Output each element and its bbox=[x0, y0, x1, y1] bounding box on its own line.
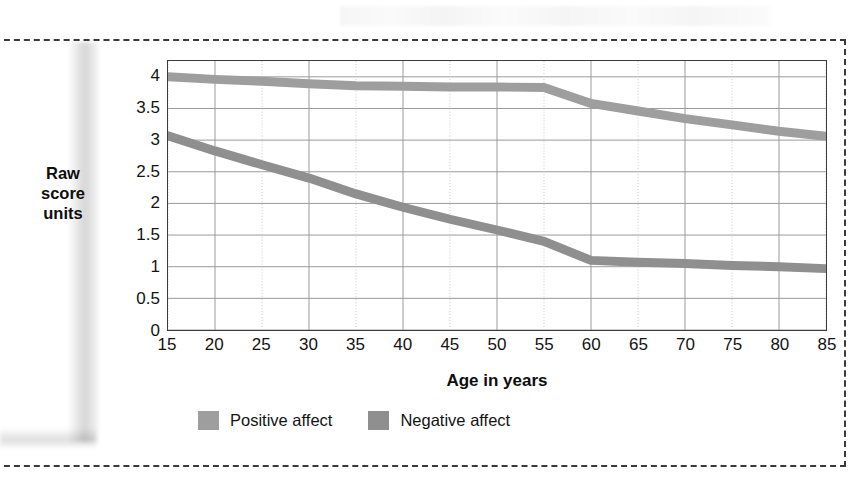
scan-bleed-top bbox=[340, 6, 770, 26]
x-tick-label: 40 bbox=[393, 336, 412, 353]
x-axis-tick-labels: 152025303540455055606570758085 bbox=[167, 336, 827, 360]
series-lines bbox=[168, 61, 826, 330]
x-tick-label: 85 bbox=[818, 336, 837, 353]
legend-item[interactable]: Negative affect bbox=[368, 411, 510, 430]
x-tick-label: 35 bbox=[346, 336, 365, 353]
x-tick-label: 20 bbox=[205, 336, 224, 353]
y-tick-label: 4 bbox=[151, 67, 160, 84]
x-tick-label: 30 bbox=[299, 336, 318, 353]
x-tick-label: 15 bbox=[158, 336, 177, 353]
page-edge-shadow-vertical bbox=[68, 42, 98, 442]
y-tick-label: 0.5 bbox=[136, 290, 160, 307]
legend-label: Positive affect bbox=[230, 411, 332, 430]
x-tick-label: 55 bbox=[535, 336, 554, 353]
x-tick-label: 70 bbox=[676, 336, 695, 353]
x-tick-label: 80 bbox=[770, 336, 789, 353]
y-axis-title-line-1: Raw bbox=[26, 163, 100, 183]
y-tick-label: 3.5 bbox=[136, 99, 160, 116]
y-axis-title-line-2: score bbox=[26, 183, 100, 203]
y-tick-label: 1.5 bbox=[136, 226, 160, 243]
figure-crop-frame-right-edge bbox=[844, 39, 846, 467]
x-tick-label: 25 bbox=[252, 336, 271, 353]
x-tick-label: 45 bbox=[440, 336, 459, 353]
x-axis-title: Age in years bbox=[167, 371, 827, 391]
x-tick-label: 60 bbox=[582, 336, 601, 353]
y-axis-title-line-3: units bbox=[26, 203, 100, 223]
y-axis-title: Raw score units bbox=[26, 163, 100, 223]
legend-swatch-icon bbox=[198, 411, 219, 430]
x-tick-label: 50 bbox=[488, 336, 507, 353]
chart-legend: Positive affectNegative affect bbox=[198, 411, 510, 430]
legend-label: Negative affect bbox=[400, 411, 510, 430]
y-tick-label: 2 bbox=[151, 194, 160, 211]
x-tick-label: 75 bbox=[723, 336, 742, 353]
y-tick-label: 3 bbox=[151, 131, 160, 148]
x-tick-label: 65 bbox=[629, 336, 648, 353]
y-axis-tick-labels: 00.511.522.533.54 bbox=[100, 60, 160, 331]
legend-swatch-icon bbox=[368, 411, 389, 430]
legend-item[interactable]: Positive affect bbox=[198, 411, 332, 430]
chart-page: Raw score units 00.511.522.533.54 152025… bbox=[0, 0, 865, 486]
page-left-margin bbox=[0, 42, 70, 434]
plot-area bbox=[167, 60, 827, 331]
y-tick-label: 1 bbox=[151, 258, 160, 275]
y-tick-label: 2.5 bbox=[136, 163, 160, 180]
